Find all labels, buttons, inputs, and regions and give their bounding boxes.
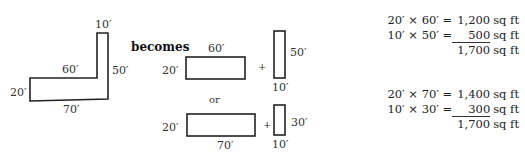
option-a-rect-10x50	[274, 31, 285, 78]
option-a-rect1-top-label: 60′	[208, 43, 225, 54]
l-shape-bottom-label: 70′	[63, 104, 80, 115]
option-a-plus: +	[258, 61, 266, 72]
becomes-label: becomes	[131, 40, 189, 54]
calc-a-line1: 20′ × 60′ = 1,200 sq ft	[387, 13, 519, 28]
option-b-rect2-right-label: 30′	[291, 117, 308, 128]
l-shape-top-label: 10′	[95, 19, 112, 30]
option-a-rect-20x60	[186, 57, 245, 79]
option-b-rect2-bottom-label: 10′	[272, 139, 289, 150]
calc-a-total: 1,700 sq ft	[387, 43, 519, 58]
calculation-a: 20′ × 60′ = 1,200 sq ft 10′ × 50′ = 500 …	[387, 13, 519, 58]
option-b-rect-20x70	[187, 114, 255, 136]
calc-a-line2: 10′ × 50′ = 500 sq ft	[387, 28, 519, 44]
calc-b-line2: 10′ × 30′ = 300 sq ft	[387, 102, 519, 118]
calc-b-total: 1,700 sq ft	[387, 117, 519, 132]
option-b-rect-10x30	[274, 105, 285, 135]
option-a-rect2-bottom-label: 10′	[272, 82, 289, 93]
l-shape-inner-label: 60′	[62, 64, 79, 75]
calculation-b: 20′ × 70′ = 1,400 sq ft 10′ × 30′ = 300 …	[387, 87, 519, 132]
option-b-rect1-bottom-label: 70′	[217, 140, 234, 151]
l-shape-right-label: 50′	[112, 65, 129, 76]
option-b-rect1-left-label: 20′	[162, 122, 179, 133]
calc-b-line1: 20′ × 70′ = 1,400 sq ft	[387, 87, 519, 102]
l-shape-left-label: 20′	[10, 87, 27, 98]
or-label: or	[209, 94, 220, 105]
option-a-rect2-right-label: 50′	[290, 47, 307, 58]
option-b-plus: +	[263, 119, 271, 130]
option-a-rect1-left-label: 20′	[162, 65, 179, 76]
